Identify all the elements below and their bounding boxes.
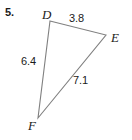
triangle-shape (0, 0, 132, 140)
problem-number: 5. (5, 6, 14, 18)
side-length-label-df: 6.4 (21, 56, 36, 67)
geometry-figure: 5. D E F 3.8 6.4 7.1 (0, 0, 132, 140)
vertex-label-d: D (42, 8, 51, 21)
triangle-outline (38, 21, 106, 118)
vertex-label-f: F (28, 119, 36, 132)
side-length-label-de: 3.8 (69, 13, 84, 24)
side-length-label-ef: 7.1 (73, 75, 88, 86)
vertex-label-e: E (111, 31, 119, 44)
